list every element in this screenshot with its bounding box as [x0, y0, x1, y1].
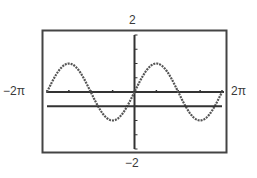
graph-plot	[0, 0, 257, 178]
axes	[47, 35, 224, 149]
